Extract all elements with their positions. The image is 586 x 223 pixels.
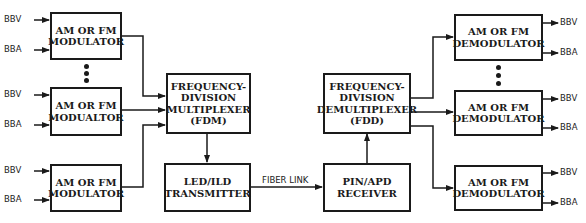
ellipsis-dot-icon <box>84 71 89 76</box>
modulator-title: AM OR FM <box>56 25 117 37</box>
modulator-subtitle: MODULATOR <box>48 36 124 48</box>
ellipsis-dot-icon <box>84 64 89 69</box>
input-label-bbv-1: BBV <box>4 14 21 24</box>
modulator-block-3: AM OR FM MODULATOR <box>50 164 122 212</box>
output-label-bba-3: BBA <box>560 197 577 207</box>
modulator-subtitle: MODUALTOR <box>48 112 123 124</box>
ellipsis-dot-icon <box>496 73 501 78</box>
fdd-demultiplexer-block: FREQUENCY- DIVISION DEMULTIPLEXER (FDD) <box>323 73 411 134</box>
fdm-multiplexer-block: FREQUENCY- DIVISION MULTIPLEXER (FDM) <box>166 73 251 134</box>
demodulator-block-2: AM OR FM DEMODULATOR <box>454 90 543 136</box>
ellipsis-dot-icon <box>84 78 89 83</box>
fiber-link-label: FIBER LINK <box>262 175 308 185</box>
ellipsis-dot-icon <box>496 81 501 86</box>
modulator-block-1: AM OR FM MODULATOR <box>50 12 122 60</box>
demodulator-title: AM OR FM <box>468 26 529 38</box>
fdm-line-1: FREQUENCY- <box>171 81 246 93</box>
fdm-line-3: MULTIPLEXER <box>167 104 251 116</box>
demodulator-subtitle: DEMODULATOR <box>452 113 544 125</box>
modulator-block-2: AM OR FM MODUALTOR <box>50 87 122 136</box>
led-ild-transmitter-block: LED/ILD TRANSMITTER <box>164 163 251 212</box>
transmitter-line-2: TRANSMITTER <box>164 188 250 200</box>
modulator-subtitle: MODULATOR <box>48 188 124 200</box>
input-label-bba-3: BBA <box>4 194 21 204</box>
output-label-bba-1: BBA <box>560 47 577 57</box>
output-label-bbv-2: BBV <box>560 93 577 103</box>
demodulator-title: AM OR FM <box>468 102 529 114</box>
demodulator-title: AM OR FM <box>468 177 529 189</box>
modulator-title: AM OR FM <box>56 100 117 112</box>
input-label-bba-1: BBA <box>4 44 21 54</box>
fdd-line-3: DEMULTIPLEXER <box>317 104 417 116</box>
fdm-line-2: DIVISION <box>181 92 237 104</box>
input-label-bba-2: BBA <box>4 119 21 129</box>
receiver-line-2: RECEIVER <box>337 188 397 200</box>
fdd-line-2: DIVISION <box>339 92 395 104</box>
output-label-bba-2: BBA <box>560 122 577 132</box>
output-label-bbv-3: BBV <box>560 167 577 177</box>
input-label-bbv-2: BBV <box>4 89 21 99</box>
ellipsis-dot-icon <box>496 65 501 70</box>
demodulator-block-3: AM OR FM DEMODULATOR <box>454 165 543 211</box>
demodulator-block-1: AM OR FM DEMODULATOR <box>454 14 543 61</box>
fdd-line-4: (FDD) <box>350 115 384 127</box>
modulator-title: AM OR FM <box>56 177 117 189</box>
demodulator-subtitle: DEMODULATOR <box>452 188 544 200</box>
receiver-line-1: PIN/APD <box>343 176 392 188</box>
pin-apd-receiver-block: PIN/APD RECEIVER <box>323 163 411 212</box>
transmitter-line-1: LED/ILD <box>184 176 231 188</box>
fdd-line-1: FREQUENCY- <box>329 81 404 93</box>
output-label-bbv-1: BBV <box>560 17 577 27</box>
input-label-bbv-3: BBV <box>4 165 21 175</box>
fdm-line-4: (FDM) <box>190 115 226 127</box>
demodulator-subtitle: DEMODULATOR <box>452 38 544 50</box>
